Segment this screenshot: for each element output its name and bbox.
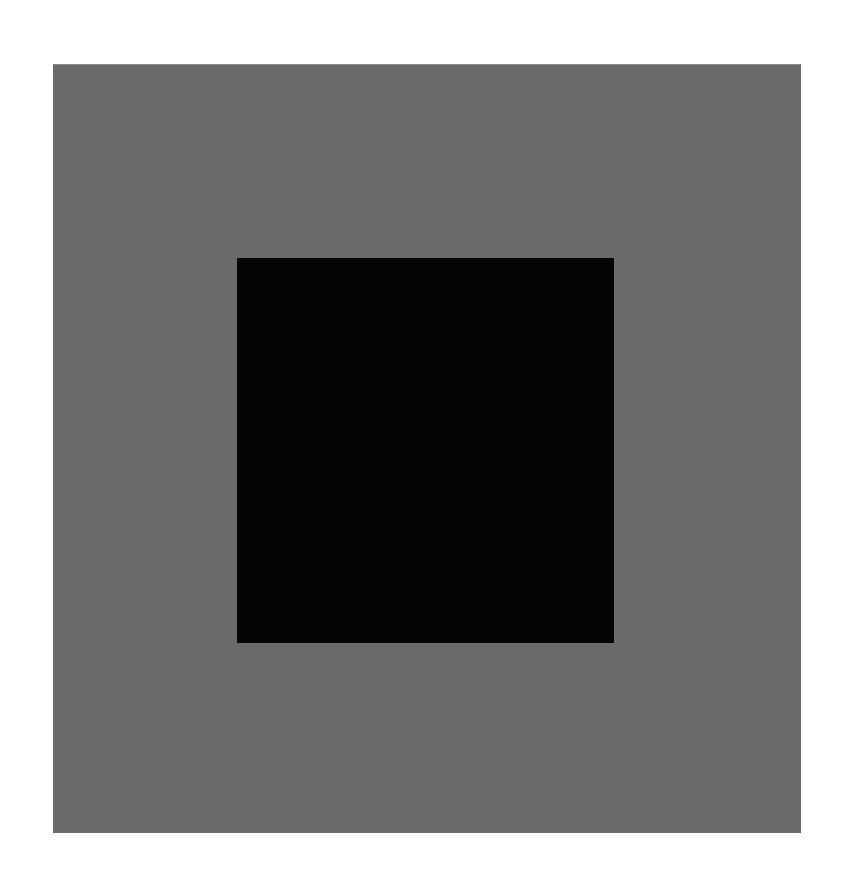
page-canvas [0,0,853,884]
outer-gray-square [53,64,801,833]
inner-black-square [237,258,614,643]
